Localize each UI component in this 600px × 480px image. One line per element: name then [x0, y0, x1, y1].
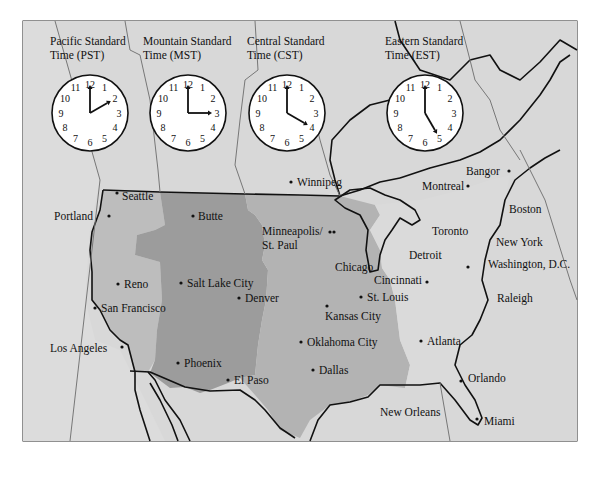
city-label: Kansas City [325, 310, 381, 323]
city-label: San Francisco [101, 302, 166, 314]
time-zone-label-line2: Time (EST) [385, 49, 440, 62]
city-dot [107, 214, 110, 217]
city-salt-lake-city: Salt Lake City [179, 277, 253, 290]
time-zone-label-line1: Central Standard [247, 35, 325, 47]
city-dot [475, 417, 478, 420]
clock-numeral: 7 [73, 133, 78, 144]
clock-numeral: 3 [215, 108, 220, 119]
time-zone-label-line1: Mountain Standard [143, 35, 232, 47]
city-dot [191, 214, 194, 217]
city-dot [311, 368, 314, 371]
city-label: St. Paul [262, 239, 298, 251]
city-st-paul: St. Paul [262, 239, 298, 251]
clock-numeral: 4 [310, 122, 315, 133]
clock-mst: 121234567891011 [150, 75, 226, 151]
city-label: Orlando [468, 372, 506, 384]
clock-numeral: 8 [62, 122, 67, 133]
city-label: Seattle [122, 190, 153, 202]
time-zone-label-line2: Time (CST) [247, 49, 303, 62]
clock-numeral: 8 [160, 122, 165, 133]
clock-numeral: 4 [448, 122, 453, 133]
clock-numeral: 9 [394, 108, 399, 119]
clock-numeral: 9 [256, 108, 261, 119]
clock-numeral: 11 [169, 82, 179, 93]
city-san-francisco: San Francisco [93, 302, 166, 314]
time-zone-label-line2: Time (PST) [50, 49, 104, 62]
city-label: Butte [198, 210, 223, 222]
city-dot [237, 296, 240, 299]
city-new-york: New York [496, 236, 543, 248]
city-boston: Boston [509, 203, 542, 215]
clock-numeral: 5 [200, 133, 205, 144]
city-dot [425, 280, 428, 283]
clock-numeral: 5 [437, 133, 442, 144]
clock-numeral: 7 [270, 133, 275, 144]
city-label: New Orleans [380, 406, 441, 418]
city-label: Salt Lake City [187, 277, 254, 290]
city-oklahoma-city: Oklahoma City [299, 336, 377, 349]
time-zone-map: Pacific StandardTime (PST)12123456789101… [0, 0, 600, 480]
city-dot [466, 265, 469, 268]
clock-cst: 121234567891011 [249, 75, 325, 151]
city-dot [179, 281, 182, 284]
city-dot [115, 191, 118, 194]
city-dot [419, 339, 422, 342]
city-dot [325, 304, 328, 307]
city-label: Miami [484, 415, 515, 427]
clock-numeral: 6 [285, 137, 290, 148]
city-label: Reno [124, 278, 149, 290]
city-label: Atlanta [427, 335, 461, 347]
city-label: Chicago [335, 261, 374, 274]
clock-numeral: 6 [423, 137, 428, 148]
city-label: Raleigh [497, 292, 533, 305]
clock-numeral: 2 [448, 93, 453, 104]
clock-numeral: 4 [113, 122, 118, 133]
city-dot [226, 378, 229, 381]
city-dot [328, 230, 331, 233]
clock-numeral: 5 [102, 133, 107, 144]
clock-numeral: 6 [186, 137, 191, 148]
clock-numeral: 7 [408, 133, 413, 144]
clock-numeral: 3 [452, 108, 457, 119]
city-dot [120, 345, 123, 348]
city-label: Washington, D.C. [488, 258, 570, 271]
city-label: Bangor [466, 165, 500, 178]
clock-numeral: 2 [211, 93, 216, 104]
clock-numeral: 1 [102, 82, 107, 93]
clock-est: 121234567891011 [387, 75, 463, 151]
city-new-orleans: New Orleans [380, 406, 441, 418]
city-label: Detroit [409, 249, 442, 261]
clock-numeral: 10 [395, 93, 405, 104]
city-cincinnati: Cincinnati [374, 274, 429, 286]
city-label: Phoenix [184, 357, 222, 369]
clock-numeral: 10 [60, 93, 70, 104]
city-toronto: Toronto [432, 225, 468, 237]
clock-numeral: 9 [59, 108, 64, 119]
city-st-louis: St. Louis [359, 291, 409, 303]
clock-numeral: 11 [268, 82, 278, 93]
city-label: Toronto [432, 225, 468, 237]
time-zone-label-line1: Eastern Standard [385, 35, 463, 47]
city-raleigh: Raleigh [497, 292, 533, 305]
clock-numeral: 11 [71, 82, 81, 93]
clock-numeral: 1 [200, 82, 205, 93]
city-phoenix: Phoenix [176, 357, 222, 369]
clock-numeral: 10 [257, 93, 267, 104]
time-zone-label-line2: Time (MST) [143, 49, 201, 62]
city-dot [116, 282, 119, 285]
city-dot [332, 230, 335, 233]
clock-numeral: 2 [310, 93, 315, 104]
clock-numeral: 10 [158, 93, 168, 104]
city-label: Oklahoma City [307, 336, 378, 349]
city-label: El Paso [234, 374, 269, 386]
city-label: Denver [245, 292, 279, 304]
city-label: New York [496, 236, 543, 248]
city-label: St. Louis [367, 291, 409, 303]
clock-numeral: 9 [157, 108, 162, 119]
clock-numeral: 2 [113, 93, 118, 104]
city-detroit: Detroit [409, 249, 442, 261]
city-chicago: Chicago [335, 261, 374, 274]
city-label: Minneapolis/ [262, 225, 323, 238]
clock-numeral: 5 [299, 133, 304, 144]
city-label: Montreal [422, 180, 464, 192]
